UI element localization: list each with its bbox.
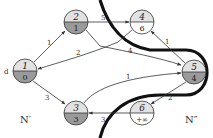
node-6-label: 6 xyxy=(139,103,145,113)
node-3-label: 3 xyxy=(73,103,79,113)
edge-weight-2-5: 4 xyxy=(128,47,133,55)
edge-weight-5-6: 2 xyxy=(168,94,172,102)
edge-weight-6-3: 3 xyxy=(101,116,105,124)
node-1: 1 0 xyxy=(13,59,37,83)
node-2-value: 1 xyxy=(73,24,78,33)
edge-weight-1-2: 1 xyxy=(47,39,51,47)
node-2-label: 2 xyxy=(72,12,79,22)
node-1-value: 0 xyxy=(22,73,27,82)
node-4-value: 6 xyxy=(139,24,144,33)
node-5-label: 5 xyxy=(191,62,197,72)
node-6-value: +∞ xyxy=(136,116,148,124)
graph-cut-diagram: 1 5 4 2 1 3 1 2 3 d N′ N″ 1 0 2 1 3 3 xyxy=(0,0,213,138)
node-3-value: 3 xyxy=(73,115,78,124)
source-label: d xyxy=(4,68,9,76)
node-2: 2 1 xyxy=(64,10,88,34)
edge-weight-4-1: 2 xyxy=(76,49,80,57)
node-3: 3 3 xyxy=(64,101,88,125)
edges xyxy=(33,22,186,113)
node-5-value: 4 xyxy=(191,74,196,83)
region-label-left: N′ xyxy=(20,114,32,125)
edge-weight-1-3: 3 xyxy=(45,94,49,102)
edge-weight-3-5: 1 xyxy=(126,73,130,81)
node-6: 6 +∞ xyxy=(130,101,154,125)
edge-weight-2-4: 5 xyxy=(101,14,105,22)
node-4-label: 4 xyxy=(138,12,145,22)
node-1-label: 1 xyxy=(22,61,28,71)
node-5: 5 4 xyxy=(182,60,206,84)
region-label-right: N″ xyxy=(185,114,198,125)
node-4: 4 6 xyxy=(130,10,154,34)
edge-weight-5-4: 1 xyxy=(165,38,169,46)
edge-2-5 xyxy=(86,30,181,65)
